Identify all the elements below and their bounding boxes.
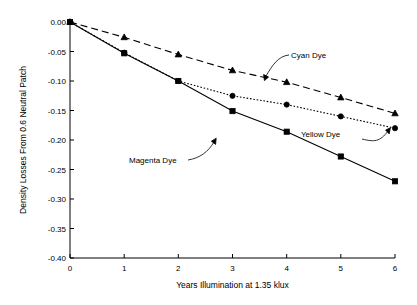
y-axis-title: Density Losses From 0.6 Neutral Patch xyxy=(18,66,28,214)
y-tick-label: -0.20 xyxy=(48,136,67,145)
y-tick-label: 0.00 xyxy=(50,18,66,27)
x-tick-label: 1 xyxy=(122,264,127,273)
chart-container: 0.00 -0.05 -0.10 -0.15 -0.20 -0.25 -0.30… xyxy=(0,0,417,305)
series-cyan-dye xyxy=(67,19,398,116)
x-tick-label: 0 xyxy=(68,264,73,273)
x-tick-label: 6 xyxy=(393,264,398,273)
annotation-label-magenta: Magenta Dye xyxy=(129,156,177,165)
y-tick-label: -0.25 xyxy=(48,166,67,175)
y-tick-label: -0.15 xyxy=(48,107,67,116)
y-tick-label: -0.40 xyxy=(48,254,67,263)
annotation-cyan-dye: Cyan Dye xyxy=(264,51,327,81)
y-tick-label: -0.10 xyxy=(48,77,67,86)
x-tick-label: 3 xyxy=(230,264,235,273)
x-axis-ticks: 0 1 2 3 4 5 6 xyxy=(68,254,398,273)
series-magenta-dye xyxy=(67,19,397,184)
annotation-magenta-dye: Magenta Dye xyxy=(129,138,216,165)
annotation-label-yellow: Yellow Dye xyxy=(301,130,341,139)
y-tick-label: -0.30 xyxy=(48,195,67,204)
y-tick-label: -0.05 xyxy=(48,48,67,57)
x-tick-label: 5 xyxy=(339,264,344,273)
line-chart: 0.00 -0.05 -0.10 -0.15 -0.20 -0.25 -0.30… xyxy=(0,0,417,305)
x-axis-title: Years Illumination at 1.35 klux xyxy=(176,280,289,290)
axes xyxy=(70,22,395,258)
y-tick-label: -0.35 xyxy=(48,225,67,234)
annotation-yellow-dye: Yellow Dye xyxy=(301,128,390,141)
annotation-label-cyan: Cyan Dye xyxy=(291,51,327,60)
x-tick-label: 4 xyxy=(284,264,289,273)
x-tick-label: 2 xyxy=(176,264,181,273)
